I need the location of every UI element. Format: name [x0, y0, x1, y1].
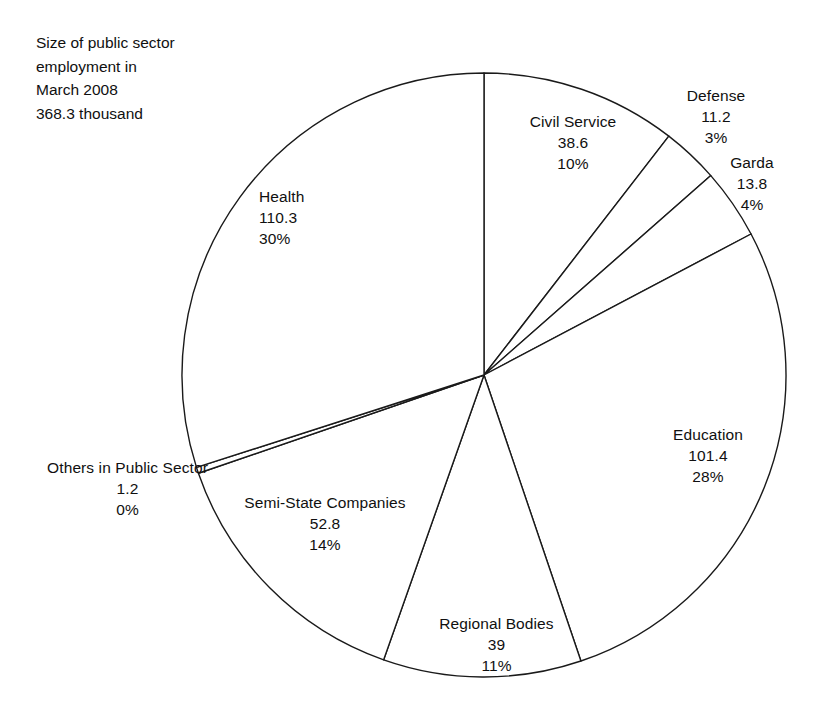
slice-label-name: Semi-State Companies [235, 492, 415, 513]
slice-label-health: Health 110.3 30% [259, 186, 349, 249]
slice-label-name: Health [259, 186, 349, 207]
slice-label-percent: 28% [653, 466, 763, 487]
slice-label-name: Regional Bodies [419, 613, 574, 634]
slice-label-percent: 10% [513, 153, 633, 174]
slice-label-garda: Garda 13.8 4% [702, 152, 802, 215]
chart-title: Size of public sector employment in Marc… [36, 31, 175, 125]
slice-label-others-in-public-sector: Others in Public Sector 1.2 0% [40, 457, 215, 520]
slice-label-regional-bodies: Regional Bodies 39 11% [419, 613, 574, 676]
slice-label-name: Education [653, 424, 763, 445]
slice-label-value: 110.3 [259, 207, 349, 228]
slice-label-education: Education 101.4 28% [653, 424, 763, 487]
chart-title-line-4: 368.3 thousand [36, 102, 175, 126]
slice-label-value: 52.8 [235, 513, 415, 534]
slice-label-semi-state-companies: Semi-State Companies 52.8 14% [235, 492, 415, 555]
slice-label-defense: Defense 11.2 3% [661, 85, 771, 148]
slice-label-name: Garda [702, 152, 802, 173]
slice-label-percent: 11% [419, 655, 574, 676]
slice-label-name: Civil Service [513, 111, 633, 132]
slice-label-percent: 30% [259, 228, 349, 249]
slice-label-value: 101.4 [653, 445, 763, 466]
slice-label-value: 1.2 [40, 478, 215, 499]
slice-label-name: Defense [661, 85, 771, 106]
slice-label-value: 11.2 [661, 106, 771, 127]
slice-label-name: Others in Public Sector [40, 457, 215, 478]
slice-label-value: 39 [419, 634, 574, 655]
pie-chart: Size of public sector employment in Marc… [0, 0, 818, 711]
slice-label-percent: 4% [702, 194, 802, 215]
chart-title-line-3: March 2008 [36, 78, 175, 102]
chart-title-line-2: employment in [36, 55, 175, 79]
slice-label-percent: 14% [235, 534, 415, 555]
slice-label-percent: 0% [40, 499, 215, 520]
slice-label-civil-service: Civil Service 38.6 10% [513, 111, 633, 174]
slice-label-value: 38.6 [513, 132, 633, 153]
chart-title-line-1: Size of public sector [36, 31, 175, 55]
slice-label-percent: 3% [661, 127, 771, 148]
slice-label-value: 13.8 [702, 173, 802, 194]
